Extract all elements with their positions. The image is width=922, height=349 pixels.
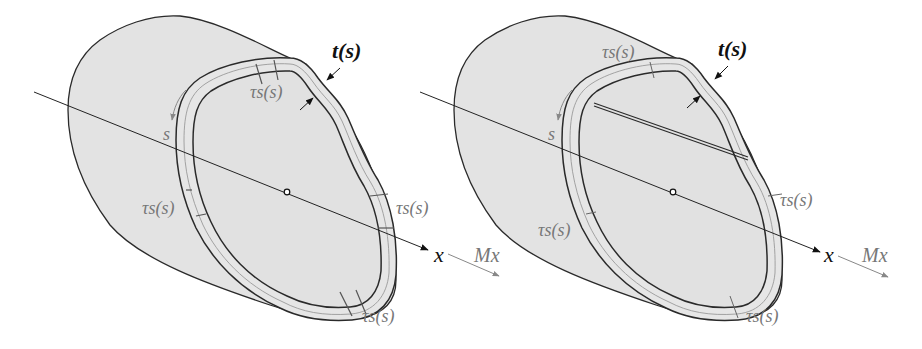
left-shear-label-right: τs(s) [396,198,428,219]
right-panel: s t(s) τs(s) τs(s) τs(s) τs(s) x Mx [420,16,888,327]
right-shear-label-right: τs(s) [780,190,812,211]
left-moment-label: Mx [473,244,500,266]
right-thickness-label: t(s) [718,36,747,61]
right-moment-label: Mx [861,244,888,266]
left-shear-label-top: τs(s) [250,82,282,103]
left-s-label: s [163,124,170,144]
right-s-label: s [548,124,555,144]
right-centroid-marker [670,189,676,195]
right-shear-label-top: τs(s) [602,42,634,63]
left-x-label: x [433,242,444,267]
right-shear-label-left: τs(s) [538,220,570,241]
left-thickness-label: t(s) [332,38,361,63]
torsion-diagram: s t(s) τs(s) τs(s) τs(s) τs(s) x Mx [0,0,922,349]
left-shear-label-bottom: τs(s) [362,306,394,327]
right-shear-label-bottom: τs(s) [746,306,778,327]
left-panel: s t(s) τs(s) τs(s) τs(s) τs(s) x Mx [34,16,500,327]
left-thickness-arrow-outer [327,68,340,80]
right-x-label: x [823,242,834,267]
right-thickness-arrow-outer [715,66,728,79]
left-centroid-marker [284,189,290,195]
left-shear-label-left: τs(s) [142,198,174,219]
